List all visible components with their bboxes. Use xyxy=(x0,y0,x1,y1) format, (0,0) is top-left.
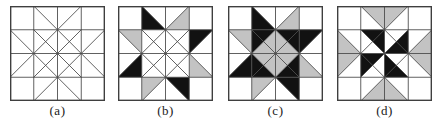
quilt-block-d: (d) xyxy=(337,6,432,124)
quilt-block-a: (a) xyxy=(10,6,105,124)
quilt-block-b: (b) xyxy=(118,6,213,124)
block-label-c: (c) xyxy=(268,104,284,117)
quilt-block-c-drawing xyxy=(228,6,323,101)
quilt-block-a-drawing xyxy=(10,6,105,101)
block-label-b: (b) xyxy=(157,104,174,117)
quilt-block-c: (c) xyxy=(228,6,323,124)
quilt-block-b-drawing xyxy=(118,6,213,101)
block-label-d: (d) xyxy=(376,104,393,117)
quilt-block-d-drawing xyxy=(337,6,432,101)
quilt-blocks-figure: (a) (b) (c) (d) xyxy=(0,0,438,136)
block-label-a: (a) xyxy=(50,104,66,117)
